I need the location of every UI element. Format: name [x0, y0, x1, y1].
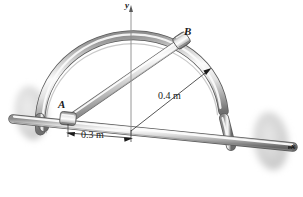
figure-canvas — [0, 0, 303, 197]
collar-joint-a — [59, 111, 76, 126]
horizontal-shaft — [13, 117, 293, 151]
radius-dimension-leader — [131, 68, 212, 131]
mechanics-figure: A B y x 0.4 m 0.3 m — [0, 0, 303, 197]
